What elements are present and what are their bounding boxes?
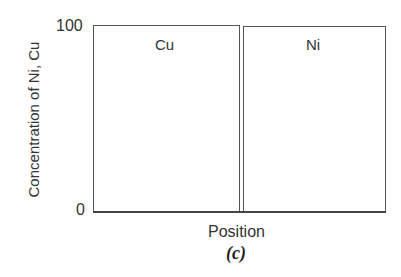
region-cu-box: Cu bbox=[93, 25, 240, 213]
y-axis-label: Concentration of Ni, Cu bbox=[25, 35, 42, 205]
x-axis-label: Position bbox=[208, 223, 265, 241]
region-ni-box: Ni bbox=[243, 26, 386, 213]
y-tick-100: 100 bbox=[56, 17, 83, 35]
figure-caption: (c) bbox=[226, 243, 246, 264]
region-cu-label: Cu bbox=[155, 36, 174, 53]
region-ni-label: Ni bbox=[306, 36, 320, 53]
y-tick-0: 0 bbox=[76, 201, 85, 219]
x-axis-baseline bbox=[93, 211, 386, 213]
